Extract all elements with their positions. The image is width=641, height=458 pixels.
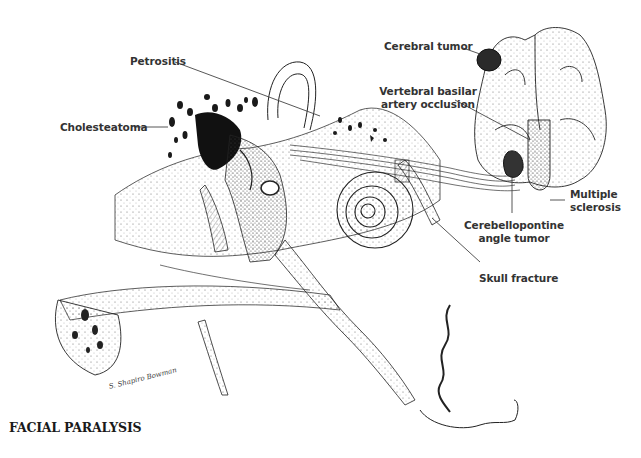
label-cholesteatoma: Cholesteatoma <box>60 121 148 134</box>
label-cerebellopontine-line1: Cerebellopontine <box>462 219 566 232</box>
label-skull-fracture: Skull fracture <box>479 272 558 285</box>
styloid-process <box>198 320 228 395</box>
cerebral-tumor-mass <box>477 49 501 71</box>
eustachian-tube <box>275 240 415 405</box>
label-vertebral-basilar-line1: Vertebral basilar <box>370 85 486 98</box>
label-cerebral-tumor: Cerebral tumor <box>384 40 473 53</box>
label-vertebral-basilar-line2: artery occlusion <box>370 98 486 111</box>
label-vertebral-basilar-artery-occlusion: Vertebral basilar artery occlusion <box>370 85 486 111</box>
label-multiple-sclerosis: Multiple sclerosis <box>570 188 621 214</box>
label-multiple-sclerosis-line1: Multiple <box>570 188 621 201</box>
nasopharynx <box>420 305 518 428</box>
label-multiple-sclerosis-line2: sclerosis <box>570 201 621 214</box>
label-petrositis: Petrositis <box>130 55 186 68</box>
figure-title: FACIAL PARALYSIS <box>9 420 141 435</box>
label-cerebellopontine-line2: angle tumor <box>462 232 566 245</box>
cpa-tumor-mass <box>504 151 524 177</box>
semicircular-canals <box>268 62 316 130</box>
label-cerebellopontine-angle-tumor: Cerebellopontine angle tumor <box>462 219 566 245</box>
cochlea <box>337 172 413 248</box>
facial-paralysis-illustration: Petrositis Cholesteatoma Cerebral tumor … <box>0 0 641 458</box>
